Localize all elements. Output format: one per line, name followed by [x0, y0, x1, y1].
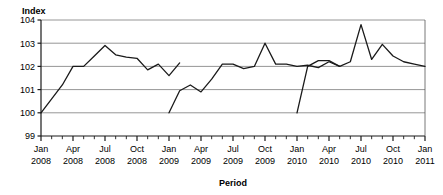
x-tick-label-year: 2009	[159, 156, 179, 166]
x-tick-label-year: 2010	[351, 156, 371, 166]
x-tick-label-year: 2009	[223, 156, 243, 166]
x-tick-label-month: Apr	[66, 144, 80, 154]
data-series-layer	[41, 25, 425, 113]
x-tick-label-month: Apr	[194, 144, 208, 154]
x-tick-label-month: Jan	[34, 144, 49, 154]
x-tick-label-month: Jan	[162, 144, 177, 154]
x-tick-label-year: 2010	[319, 156, 339, 166]
gridlines	[41, 20, 425, 113]
y-tick-label: 102	[20, 62, 35, 72]
x-tick-label-month: Oct	[258, 144, 273, 154]
x-tick-label-month: Oct	[386, 144, 401, 154]
x-tick-label-month: Jul	[227, 144, 239, 154]
x-tick-label-year: 2009	[255, 156, 275, 166]
series-line-2009	[169, 43, 340, 113]
x-tick-label-year: 2010	[287, 156, 307, 166]
x-axis-ticks	[41, 136, 425, 141]
x-tick-label-month: Oct	[130, 144, 145, 154]
x-tick-label-month: Apr	[322, 144, 336, 154]
x-tick-label-month: Jan	[418, 144, 433, 154]
y-tick-label: 101	[20, 85, 35, 95]
x-tick-label-year: 2008	[63, 156, 83, 166]
x-tick-label-year: 2008	[127, 156, 147, 166]
x-tick-label-month: Jul	[355, 144, 367, 154]
x-tick-label-year: 2008	[95, 156, 115, 166]
series-line-2008	[41, 46, 180, 113]
y-tick-label: 103	[20, 39, 35, 49]
x-axis-title: Period	[219, 178, 247, 188]
x-tick-label-year: 2009	[191, 156, 211, 166]
x-tick-label-month: Jan	[290, 144, 305, 154]
x-tick-label-year: 2011	[415, 156, 434, 166]
chart-canvas: Index 99100101102103104 Jan2008Apr2008Ju…	[0, 0, 443, 195]
x-tick-label-month: Jul	[99, 144, 111, 154]
series-line-2010	[297, 25, 425, 113]
x-axis-tick-labels: Jan2008Apr2008Jul2008Oct2008Jan2009Apr20…	[31, 144, 435, 166]
y-tick-label: 100	[20, 108, 35, 118]
index-period-line-chart: Index 99100101102103104 Jan2008Apr2008Ju…	[0, 0, 443, 195]
y-tick-label: 104	[20, 15, 35, 25]
y-axis-tick-labels: 99100101102103104	[20, 15, 35, 141]
y-tick-label: 99	[25, 131, 35, 141]
x-tick-label-year: 2010	[383, 156, 403, 166]
x-tick-label-year: 2008	[31, 156, 51, 166]
